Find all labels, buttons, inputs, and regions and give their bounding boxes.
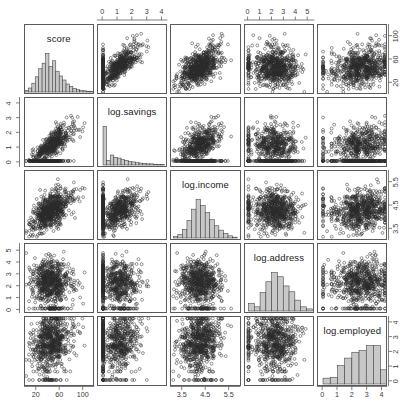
scatter-panel-score-vs-log-income [24,170,94,240]
svg-text:5: 5 [4,248,13,252]
svg-text:3.5: 3.5 [177,390,187,399]
svg-text:3: 3 [4,272,13,276]
diagonal-panel-log-address: log.address [244,243,314,313]
scatter-panel-log-income-vs-log-address [170,243,240,313]
svg-text:3: 3 [281,7,285,16]
svg-text:1: 1 [391,364,400,368]
svg-text:0: 0 [245,7,249,16]
svg-text:5: 5 [305,7,309,16]
diagonal-panel-score: score [24,24,94,94]
scatter-panel-log-employed-vs-log-address [317,243,387,313]
diagonal-panel-log-income: log.income [170,170,240,240]
axis-bottom-log-income: 3.54.55.5 [170,386,240,408]
svg-text:3: 3 [365,390,369,399]
svg-text:3: 3 [4,116,13,120]
scatter-panel-log-savings-vs-score [97,24,167,94]
svg-text:4: 4 [293,7,297,16]
svg-text:0: 0 [391,379,400,383]
svg-text:20: 20 [391,78,400,86]
svg-text:100: 100 [76,390,88,399]
svg-text:2: 2 [350,390,354,399]
svg-text:4: 4 [4,260,13,264]
axis-left-log-address: 012345 [3,243,20,313]
svg-text:4.5: 4.5 [200,390,210,399]
axis-top-log-savings: 01234 [97,4,167,20]
svg-text:1: 1 [335,390,339,399]
scatterplot-matrix: scorelog.savingslog.incomelog.addresslog… [0,0,411,413]
svg-text:2: 2 [130,7,134,16]
scatter-panel-log-savings-vs-log-employed [97,316,167,386]
svg-text:1: 1 [115,7,119,16]
svg-text:100: 100 [391,30,400,42]
svg-text:2: 2 [391,349,400,353]
scatter-panel-score-vs-log-address [24,243,94,313]
svg-text:0: 0 [4,160,13,164]
svg-text:0: 0 [320,390,324,399]
svg-text:60: 60 [391,55,400,63]
svg-text:1: 1 [257,7,261,16]
scatter-panel-log-savings-vs-log-address [97,243,167,313]
svg-text:3.5: 3.5 [391,223,400,233]
scatter-panel-log-address-vs-log-income [244,170,314,240]
svg-text:4: 4 [4,101,13,105]
scatter-panel-log-address-vs-score [244,24,314,94]
svg-text:2: 2 [4,284,13,288]
axis-right-score: 2060100 [388,24,406,94]
svg-text:0: 0 [100,7,104,16]
svg-text:1: 1 [4,296,13,300]
scatter-panel-score-vs-log-savings [24,97,94,167]
scatter-panel-log-employed-vs-log-income [317,170,387,240]
scatter-panel-log-address-vs-log-savings [244,97,314,167]
scatter-panel-log-employed-vs-log-savings [317,97,387,167]
svg-text:3: 3 [145,7,149,16]
diagonal-panel-log-savings: log.savings [97,97,167,167]
svg-text:5.5: 5.5 [391,177,400,187]
svg-text:4.5: 4.5 [391,200,400,210]
svg-text:4: 4 [391,320,400,324]
svg-text:3: 3 [391,335,400,339]
svg-text:2: 2 [4,130,13,134]
svg-text:2: 2 [269,7,273,16]
svg-text:1: 1 [4,145,13,149]
scatter-panel-log-savings-vs-log-income [97,170,167,240]
svg-text:4: 4 [159,7,163,16]
axis-left-log-savings: 01234 [3,97,20,167]
diagonal-panel-log-employed: log.employed [317,316,387,386]
scatter-panel-log-income-vs-log-savings [170,97,240,167]
svg-text:4: 4 [380,390,384,399]
axis-bottom-score: 2060100 [24,386,94,408]
svg-text:60: 60 [55,390,63,399]
axis-bottom-log-employed: 01234 [317,386,387,408]
axis-top-log-address: 012345 [244,4,314,20]
scatter-panel-log-employed-vs-score [317,24,387,94]
svg-text:20: 20 [31,390,39,399]
scatter-panel-log-income-vs-score [170,24,240,94]
svg-text:5.5: 5.5 [224,390,234,399]
svg-text:0: 0 [4,307,13,311]
axis-right-log-employed: 01234 [388,316,406,386]
scatter-panel-log-income-vs-log-employed [170,316,240,386]
scatter-panel-score-vs-log-employed [24,316,94,386]
axis-right-log-income: 3.54.55.5 [388,170,406,240]
scatter-panel-log-address-vs-log-employed [244,316,314,386]
